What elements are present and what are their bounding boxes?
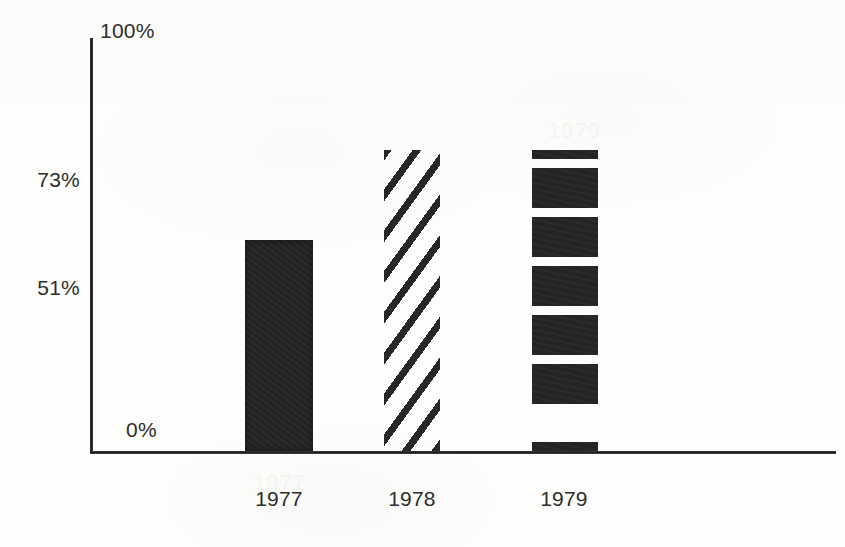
scan-artifact-ghost-text: 1977 <box>253 470 306 496</box>
y-axis-tick-label-100: 100% <box>100 19 155 43</box>
x-axis-tick-label-1979: 1979 <box>504 487 624 511</box>
y-axis-tick-label-0: 0% <box>126 418 157 442</box>
bar-1979-stripe <box>532 266 598 306</box>
bar-1979-stripe <box>532 168 598 208</box>
chart-page: 100% 73% 51% 0% 1977 1979 1977 1978 1979 <box>0 0 845 547</box>
plot-area: 100% 73% 51% 0% 1977 1979 1977 1978 1979 <box>0 0 845 547</box>
bar-1979-stripe <box>532 150 598 159</box>
x-axis-tick-label-1978: 1978 <box>352 487 472 511</box>
y-axis-tick-label-73: 73% <box>15 168 80 192</box>
bar-1979 <box>532 150 598 451</box>
bar-1979-stripe <box>532 315 598 355</box>
bar-1978 <box>384 150 440 451</box>
x-axis-line <box>90 451 836 454</box>
bar-1979-stripe <box>532 442 598 451</box>
y-axis-line <box>90 38 93 454</box>
bar-1979-stripe <box>532 217 598 257</box>
y-axis-tick-label-51: 51% <box>15 276 80 300</box>
bar-1978-hatch-fill <box>384 150 440 451</box>
bar-1979-stripe <box>532 364 598 404</box>
scan-artifact-ghost-text: 1979 <box>548 118 601 144</box>
bar-1977 <box>245 240 313 451</box>
